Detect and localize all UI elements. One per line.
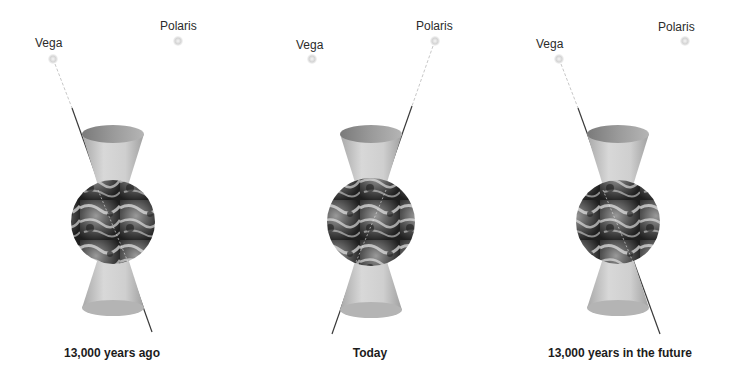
polaris-star-icon: [680, 36, 690, 46]
polaris-label: Polaris: [160, 19, 197, 33]
vega-label: Vega: [35, 36, 62, 50]
vega-label: Vega: [296, 38, 323, 52]
vega-star-icon: [48, 54, 58, 64]
axis-dashed-extension: [55, 64, 72, 108]
panel-caption: 13,000 years in the future: [548, 346, 692, 360]
polaris-star-icon: [173, 36, 183, 46]
polaris-star-icon: [430, 36, 440, 46]
vega-star-icon: [554, 54, 564, 64]
earth-globe: [327, 178, 415, 266]
earth-globe: [576, 180, 660, 264]
earth-globe: [71, 180, 155, 264]
panel-13000-years-ago: [48, 36, 183, 332]
vega-label: Vega: [536, 37, 563, 51]
polaris-label: Polaris: [416, 19, 453, 33]
panel-13000-years-future: [554, 36, 690, 334]
panel-caption: Today: [353, 346, 387, 360]
precession-diagram: [0, 0, 733, 378]
axis-dashed-extension: [412, 46, 433, 106]
panel-today: [307, 36, 440, 334]
vega-star-icon: [307, 54, 317, 64]
polaris-label: Polaris: [658, 20, 695, 34]
axis-dashed-extension: [561, 64, 578, 108]
panel-caption: 13,000 years ago: [64, 346, 160, 360]
